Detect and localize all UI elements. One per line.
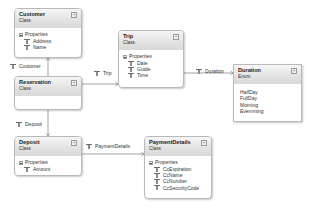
property-item[interactable]: Time bbox=[123, 72, 183, 78]
property-item[interactable]: Name bbox=[19, 44, 81, 50]
properties-section-toggle[interactable]: Properties bbox=[19, 31, 81, 38]
enum-value[interactable]: Evennning bbox=[240, 108, 301, 114]
property-name: Time bbox=[137, 72, 148, 78]
collapse-chevron-icon[interactable]: « bbox=[201, 140, 207, 146]
properties-section-toggle[interactable]: Properties bbox=[149, 159, 211, 166]
property-icon bbox=[86, 144, 92, 149]
properties-section-toggle[interactable]: Properties bbox=[123, 53, 183, 60]
properties-section-toggle[interactable]: Properties bbox=[19, 159, 81, 166]
association-name: PaymentDetails bbox=[95, 143, 130, 149]
property-icon bbox=[24, 45, 30, 50]
collapse-chevron-icon[interactable]: « bbox=[173, 34, 179, 40]
section-title: Properties bbox=[25, 159, 48, 166]
section-title: Properties bbox=[25, 31, 48, 38]
class-kind: Class bbox=[19, 86, 81, 92]
class-kind: Class bbox=[123, 40, 183, 46]
enum-shape-duration[interactable]: Duration Enum « HalfDay FullDay Morning … bbox=[233, 64, 302, 122]
property-icon bbox=[16, 122, 22, 127]
shape-header[interactable]: Duration Enum « bbox=[234, 65, 301, 84]
association-label-payment-details[interactable]: PaymentDetails bbox=[86, 143, 130, 149]
association-name: Deposit bbox=[25, 121, 42, 127]
property-icon bbox=[24, 39, 30, 44]
class-shape-reservation[interactable]: Reservation Class « bbox=[14, 76, 82, 110]
class-diagram-canvas: Customer Class « Properties Address Name… bbox=[0, 0, 311, 210]
association-label-deposit[interactable]: Deposit bbox=[16, 121, 42, 127]
association-name: Trip bbox=[103, 70, 111, 76]
property-name: Name bbox=[33, 44, 46, 50]
shape-header[interactable]: PaymentDetails Class « bbox=[145, 137, 211, 156]
collapse-chevron-icon[interactable]: « bbox=[291, 68, 297, 74]
property-item[interactable]: Amount bbox=[19, 166, 81, 172]
enum-kind: Enum bbox=[238, 74, 301, 80]
collapse-minus-icon[interactable] bbox=[123, 55, 127, 59]
property-name: CcSecurityCode bbox=[163, 185, 199, 191]
collapse-chevron-icon[interactable]: « bbox=[71, 140, 77, 146]
class-shape-payment-details[interactable]: PaymentDetails Class « Properties CcExpi… bbox=[144, 136, 212, 199]
property-item[interactable]: CcSecurityCode bbox=[149, 185, 211, 191]
property-icon bbox=[154, 173, 160, 178]
association-name: Duration bbox=[205, 68, 224, 74]
collapse-chevron-icon[interactable]: « bbox=[71, 12, 77, 18]
class-shape-trip[interactable]: Trip Class « Properties Date Guide Time bbox=[118, 30, 184, 88]
property-icon bbox=[128, 73, 134, 78]
association-label-customer[interactable]: Customer bbox=[10, 63, 41, 69]
class-kind: Class bbox=[19, 18, 81, 24]
shape-header[interactable]: Customer Class « bbox=[15, 9, 81, 28]
association-name: Customer bbox=[19, 63, 41, 69]
property-icon bbox=[94, 71, 100, 76]
property-icon bbox=[154, 179, 160, 184]
class-kind: Class bbox=[19, 146, 81, 152]
property-icon bbox=[196, 69, 202, 74]
property-icon bbox=[154, 167, 160, 172]
collapse-minus-icon[interactable] bbox=[19, 161, 23, 165]
property-name: Amount bbox=[33, 166, 50, 172]
property-icon bbox=[154, 185, 160, 190]
section-title: Properties bbox=[129, 53, 152, 60]
class-shape-customer[interactable]: Customer Class « Properties Address Name bbox=[14, 8, 82, 58]
collapse-chevron-icon[interactable]: « bbox=[71, 80, 77, 86]
collapse-minus-icon[interactable] bbox=[149, 161, 153, 165]
property-icon bbox=[128, 67, 134, 72]
section-title: Properties bbox=[155, 159, 178, 166]
property-icon bbox=[128, 61, 134, 66]
association-label-duration[interactable]: Duration bbox=[196, 68, 224, 74]
class-kind: Class bbox=[149, 146, 211, 152]
shape-header[interactable]: Reservation Class « bbox=[15, 77, 81, 96]
shape-header[interactable]: Trip Class « bbox=[119, 31, 183, 50]
association-label-trip[interactable]: Trip bbox=[94, 70, 111, 76]
property-icon bbox=[10, 64, 16, 69]
shape-header[interactable]: Deposit Class « bbox=[15, 137, 81, 156]
property-icon bbox=[24, 167, 30, 172]
collapse-minus-icon[interactable] bbox=[19, 33, 23, 37]
class-shape-deposit[interactable]: Deposit Class « Properties Amount bbox=[14, 136, 82, 176]
